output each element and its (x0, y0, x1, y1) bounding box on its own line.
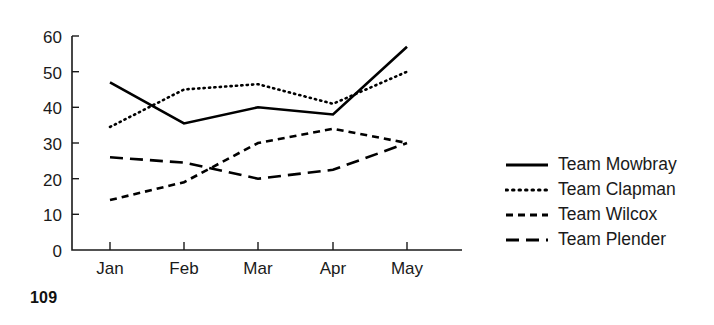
x-tick-label-mar: Mar (243, 259, 273, 278)
legend-label-team-clapman: Team Clapman (558, 181, 676, 199)
solid-line-swatch (505, 158, 549, 172)
y-tick-label-40: 40 (43, 99, 62, 118)
page-number: 109 (30, 289, 57, 307)
series-line-team-clapman (110, 72, 407, 127)
y-tick-label-10: 10 (43, 206, 62, 225)
y-axis-ticks (72, 36, 79, 214)
long-dash-line-swatch (505, 233, 549, 247)
y-axis-tick-labels: 60 50 40 30 20 10 0 (43, 28, 62, 261)
legend-label-team-plender: Team Plender (558, 231, 666, 249)
line-chart-figure: 60 50 40 30 20 10 0 Jan Feb Ma (0, 0, 714, 325)
legend-item-team-plender: Team Plender (505, 227, 710, 252)
x-tick-label-may: May (391, 259, 424, 278)
series-line-team-plender (110, 143, 407, 179)
x-tick-label-feb: Feb (169, 259, 198, 278)
chart-series-group (110, 47, 407, 200)
short-dash-line-swatch (505, 208, 549, 222)
y-tick-label-50: 50 (43, 64, 62, 83)
legend-label-team-mowbray: Team Mowbray (558, 156, 677, 174)
dotted-line-swatch (505, 183, 549, 197)
chart-legend: Team Mowbray Team Clapman Team Wilcox Te… (505, 152, 710, 252)
legend-item-team-wilcox: Team Wilcox (505, 202, 710, 227)
x-axis-ticks (110, 242, 407, 250)
legend-label-team-wilcox: Team Wilcox (558, 206, 657, 224)
y-tick-label-0: 0 (53, 242, 62, 261)
y-tick-label-20: 20 (43, 171, 62, 190)
y-tick-label-60: 60 (43, 28, 62, 47)
legend-item-team-clapman: Team Clapman (505, 177, 710, 202)
x-axis-tick-labels: Jan Feb Mar Apr May (96, 259, 423, 278)
legend-item-team-mowbray: Team Mowbray (505, 152, 710, 177)
y-tick-label-30: 30 (43, 135, 62, 154)
x-tick-label-apr: Apr (320, 259, 347, 278)
series-line-team-wilcox (110, 129, 407, 200)
x-tick-label-jan: Jan (96, 259, 123, 278)
